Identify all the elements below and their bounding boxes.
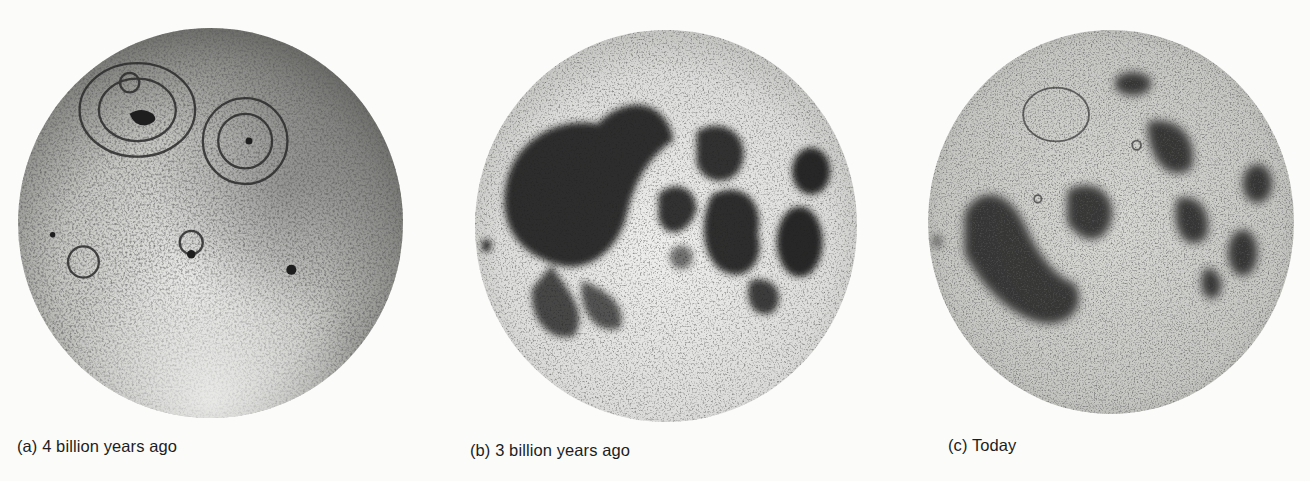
panel-b: (b) 3 billion years ago [440, 0, 900, 481]
moon-4-billion-years-ago-image [18, 28, 403, 418]
panel-c: (c) Today [900, 0, 1310, 481]
caption-panel-c: (c) Today [948, 436, 1016, 455]
panel-a: (a) 4 billion years ago [0, 0, 440, 481]
caption-panel-a: (a) 4 billion years ago [17, 437, 177, 456]
moon-3-billion-years-ago-image [475, 30, 857, 422]
caption-panel-b: (b) 3 billion years ago [470, 441, 630, 460]
moon-today-image [928, 30, 1294, 414]
